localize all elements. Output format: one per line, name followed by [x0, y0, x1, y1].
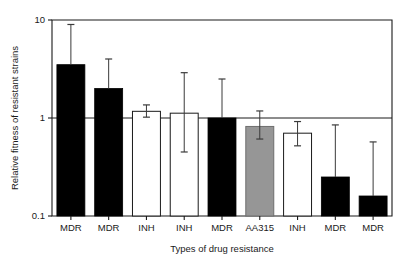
x-tick-label-7: MDR	[325, 222, 347, 233]
x-tick-label-8: MDR	[362, 222, 384, 233]
bar-mdr-4	[208, 118, 236, 216]
x-tick-label-6: INH	[289, 222, 306, 233]
x-axis-ticks	[71, 216, 373, 220]
bar-mdr-7	[321, 177, 349, 216]
x-axis-tick-labels: MDRMDRINHINHMDRAA315INHMDRMDR	[60, 222, 384, 233]
x-axis-title-label: Types of drug resistance	[170, 243, 274, 254]
y-axis-title-label: Relative fitness of resistant strains	[9, 46, 20, 190]
bar-mdr-8	[359, 196, 387, 216]
bar-inh-2	[132, 111, 160, 216]
relative-fitness-bar-chart: Relative fitness of resistant strains 10…	[0, 0, 412, 268]
bar-mdr-0	[57, 65, 85, 216]
y-axis-title: Relative fitness of resistant strains	[9, 46, 20, 190]
y-axis-ticks: 1010.1	[32, 14, 52, 221]
y-tick-label: 0.1	[32, 210, 45, 221]
x-tick-label-2: INH	[138, 222, 155, 233]
x-tick-label-0: MDR	[60, 222, 82, 233]
bar-mdr-1	[95, 89, 123, 217]
bar-chart-figure: Relative fitness of resistant strains 10…	[0, 0, 412, 268]
x-axis-title: Types of drug resistance	[170, 243, 274, 254]
x-tick-label-1: MDR	[98, 222, 120, 233]
y-tick-label: 1	[40, 112, 45, 123]
bar-aa315-5	[246, 126, 274, 216]
x-tick-label-4: MDR	[211, 222, 233, 233]
x-tick-label-3: INH	[176, 222, 193, 233]
x-tick-label-5: AA315	[246, 222, 275, 233]
y-tick-label: 10	[34, 14, 45, 25]
